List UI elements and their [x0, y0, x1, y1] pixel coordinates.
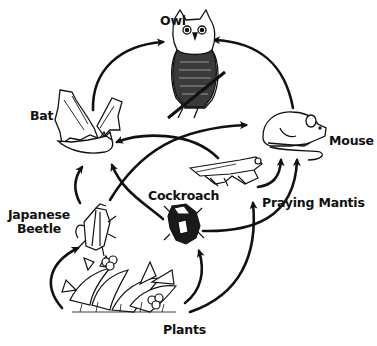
japanese-beetle-label-line2: Beetle	[6, 222, 72, 236]
japanese-beetle-illustration	[76, 204, 116, 256]
food-web-diagram: Owl Bat Mouse Cockroach Praying Mantis J…	[0, 0, 377, 346]
arrow-plants-to-cockroach	[185, 251, 202, 303]
arrow-mantis-to-bat	[117, 136, 218, 158]
food-web-graphics	[0, 0, 377, 346]
plants-illustration	[62, 256, 176, 312]
arrow-bat-to-owl	[93, 42, 163, 110]
cockroach-label: Cockroach	[148, 189, 219, 203]
arrow-beetle-to-bat	[75, 167, 82, 203]
praying-mantis-label: Praying Mantis	[262, 196, 365, 210]
japanese-beetle-label: Japanese Beetle	[6, 208, 72, 236]
owl-label: Owl	[160, 14, 186, 28]
bat-label: Bat	[30, 109, 53, 123]
praying-mantis-illustration	[190, 157, 262, 186]
arrow-mouse-to-owl	[214, 40, 293, 108]
plants-label: Plants	[163, 323, 206, 337]
bat-illustration	[55, 90, 122, 153]
mouse-illustration	[263, 112, 326, 160]
cockroach-illustration	[164, 204, 204, 244]
japanese-beetle-label-line1: Japanese	[6, 208, 72, 222]
mouse-label: Mouse	[329, 134, 374, 148]
